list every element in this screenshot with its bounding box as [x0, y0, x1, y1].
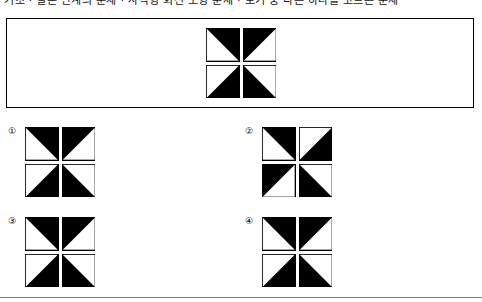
header-text: 기초 · 결론 단계의 문제 · 사각형 회전 도형 문제 · 보기 중 다른 … — [4, 0, 399, 7]
stimulus-box — [6, 18, 474, 108]
option-2[interactable]: ② — [245, 126, 355, 206]
option-3-number: ③ — [8, 216, 16, 227]
option-2-figure[interactable] — [262, 127, 332, 197]
cropped-header-line: 기초 · 결론 단계의 문제 · 사각형 회전 도형 문제 · 보기 중 다른 … — [0, 0, 482, 8]
option-4-quadrant-top-right — [299, 217, 333, 251]
option-4-figure[interactable] — [262, 217, 332, 287]
option-1-quadrant-top-right — [62, 127, 96, 161]
question-page: 기초 · 결론 단계의 문제 · 사각형 회전 도형 문제 · 보기 중 다른 … — [0, 0, 482, 302]
option-2-quadrant-bottom-left — [262, 164, 296, 198]
option-4-quadrant-bottom-left — [262, 254, 296, 288]
option-1-number: ① — [8, 126, 16, 137]
option-1-quadrant-bottom-right — [62, 164, 96, 198]
option-2-number: ② — [245, 126, 253, 137]
option-2-quadrant-top-left — [262, 127, 296, 161]
stimulus-quadrant-top-left — [206, 28, 240, 62]
option-4-quadrant-bottom-right — [299, 254, 333, 288]
stimulus-quadrant-bottom-right — [243, 65, 277, 99]
option-4-number: ④ — [245, 216, 253, 227]
stimulus-quadrant-bottom-left — [206, 65, 240, 99]
option-1-quadrant-top-left — [25, 127, 59, 161]
stimulus-figure — [206, 28, 276, 98]
option-2-quadrant-top-right — [299, 127, 333, 161]
option-1-figure[interactable] — [25, 127, 95, 197]
option-1[interactable]: ① — [8, 126, 118, 206]
option-3-figure[interactable] — [25, 217, 95, 287]
option-3-quadrant-bottom-left — [25, 254, 59, 288]
option-4[interactable]: ④ — [245, 216, 355, 296]
option-3-quadrant-top-left — [25, 217, 59, 251]
option-3-quadrant-bottom-right — [62, 254, 96, 288]
page-bottom-rule — [0, 297, 482, 298]
option-3-quadrant-top-right — [62, 217, 96, 251]
stimulus-quadrant-top-right — [243, 28, 277, 62]
option-3[interactable]: ③ — [8, 216, 118, 296]
option-1-quadrant-bottom-left — [25, 164, 59, 198]
option-2-quadrant-bottom-right — [299, 164, 333, 198]
option-4-quadrant-top-left — [262, 217, 296, 251]
